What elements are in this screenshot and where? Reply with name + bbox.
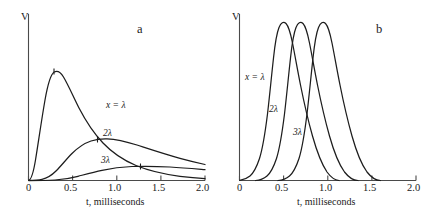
panel-a-xtick-3: 1.5 (152, 183, 165, 194)
panel-a-xtick-1: 0.5 (64, 183, 77, 194)
panel-b-label-3lambda: 3λ (293, 128, 302, 138)
panel-b-curve-2lambda (256, 22, 359, 180)
panel-a-curve-2lambda (29, 139, 205, 181)
panel-a-xtick-2: 1.0 (108, 183, 121, 194)
panel-a-y-axis-label: V (21, 12, 29, 23)
panel-a-xtick-4: 2.0 (196, 183, 209, 194)
panel-b: V b x = λ 2λ 3λ 0 0.5 1.0 1.5 2.0 t, mil… (221, 0, 442, 214)
panel-a-label-2lambda: 2λ (103, 129, 112, 139)
panel-b-xtick-2: 1.0 (319, 183, 332, 194)
figure-two-panel-plot: V a x = λ 2λ 3λ 0 0.5 1.0 1.5 2.0 t, mil… (0, 0, 442, 214)
panel-b-letter: b (376, 23, 382, 36)
panel-a-curve-lambda (29, 71, 205, 180)
panel-b-xtick-3: 1.5 (363, 183, 376, 194)
panel-a-x-axis-label: t, milliseconds (86, 197, 144, 207)
panel-b-y-axis-label: V (232, 12, 240, 23)
panel-b-label-2lambda: 2λ (269, 105, 278, 115)
panel-a-letter: a (137, 23, 143, 36)
panel-b-curve-lambda (240, 22, 339, 180)
panel-b-xtick-4: 2.0 (407, 183, 420, 194)
panel-b-xtick-1: 0.5 (275, 183, 288, 194)
panel-b-xtick-0: 0 (237, 183, 242, 194)
panel-b-x-axis-label: t, milliseconds (297, 197, 355, 207)
panel-a: V a x = λ 2λ 3λ 0 0.5 1.0 1.5 2.0 t, mil… (0, 0, 221, 214)
panel-a-xtick-0: 0 (26, 183, 31, 194)
panel-a-label-3lambda: 3λ (101, 156, 110, 166)
panel-b-label-lambda: x = λ (245, 73, 265, 83)
panel-a-label-lambda: x = λ (106, 101, 126, 111)
